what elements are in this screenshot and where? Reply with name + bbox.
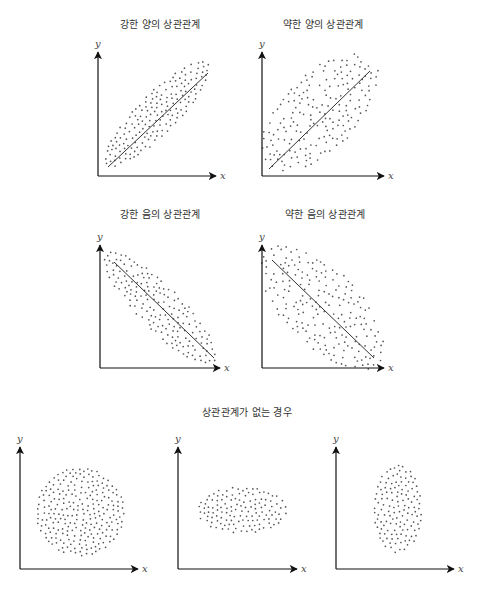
data-point	[323, 264, 325, 266]
data-point	[247, 511, 249, 513]
data-point	[276, 150, 278, 152]
data-point	[56, 542, 58, 544]
data-point	[131, 111, 133, 113]
data-point	[391, 492, 393, 494]
data-point	[291, 117, 293, 119]
data-point	[325, 349, 327, 351]
data-point	[306, 79, 308, 81]
data-point	[265, 273, 267, 275]
data-point	[332, 269, 334, 271]
data-point	[335, 98, 337, 100]
data-point	[310, 298, 312, 300]
data-point	[200, 518, 202, 520]
data-point	[131, 265, 133, 267]
data-point	[106, 271, 108, 273]
data-point	[313, 123, 315, 125]
data-point	[279, 154, 281, 156]
data-point	[305, 154, 307, 156]
data-point	[342, 357, 344, 359]
data-point	[343, 299, 345, 301]
data-point	[106, 162, 108, 164]
data-point	[38, 504, 40, 506]
data-point	[81, 555, 83, 557]
data-point	[405, 494, 407, 496]
data-point	[391, 538, 393, 540]
data-point	[102, 542, 104, 544]
data-point	[384, 533, 386, 535]
data-point	[107, 480, 109, 482]
data-point	[318, 138, 320, 140]
data-point	[358, 99, 360, 101]
data-point	[364, 68, 366, 70]
data-point	[171, 342, 173, 344]
data-point	[318, 280, 320, 282]
data-point	[175, 108, 177, 110]
data-point	[380, 351, 382, 353]
data-point	[175, 80, 177, 82]
data-point	[194, 320, 196, 322]
data-point	[206, 338, 208, 340]
data-point	[324, 151, 326, 153]
data-point	[174, 73, 176, 75]
data-point	[350, 94, 352, 96]
data-point	[201, 342, 203, 344]
data-point	[126, 280, 128, 282]
data-point	[111, 529, 113, 531]
data-point	[377, 502, 379, 504]
data-point	[316, 276, 318, 278]
data-point	[270, 279, 272, 281]
data-point	[113, 538, 115, 540]
data-point	[341, 363, 343, 365]
data-point	[159, 314, 161, 316]
data-point	[131, 147, 133, 149]
data-point	[60, 539, 62, 541]
data-point	[293, 121, 295, 123]
data-point	[96, 500, 98, 502]
data-points	[198, 487, 286, 533]
data-point	[141, 267, 143, 269]
data-point	[374, 346, 376, 348]
data-point	[301, 277, 303, 279]
data-point	[308, 84, 310, 86]
data-point	[96, 494, 98, 496]
data-point	[289, 285, 291, 287]
data-point	[307, 324, 309, 326]
data-point	[199, 331, 201, 333]
data-point	[114, 285, 116, 287]
data-point	[354, 64, 356, 66]
data-point	[184, 79, 186, 81]
data-point	[213, 493, 215, 495]
data-point	[95, 517, 97, 519]
data-point	[297, 326, 299, 328]
data-point	[210, 342, 212, 344]
data-point	[395, 523, 397, 525]
data-point	[334, 78, 336, 80]
data-point	[212, 507, 214, 509]
data-point	[284, 262, 286, 264]
data-point	[291, 157, 293, 159]
data-point	[284, 139, 286, 141]
data-point	[63, 542, 65, 544]
data-point	[351, 117, 353, 119]
data-point	[377, 514, 379, 516]
data-point	[194, 359, 196, 361]
data-point	[62, 472, 64, 474]
data-point	[62, 533, 64, 535]
data-point	[167, 114, 169, 116]
data-point	[49, 531, 51, 533]
data-point	[325, 141, 327, 143]
data-point	[45, 533, 47, 535]
data-point	[120, 162, 122, 164]
data-point	[341, 60, 343, 62]
data-point	[192, 101, 194, 103]
data-point	[182, 313, 184, 315]
data-point	[201, 85, 203, 87]
data-point	[166, 97, 168, 99]
data-point	[67, 534, 69, 536]
data-point	[189, 340, 191, 342]
data-point	[221, 499, 223, 501]
data-point	[98, 504, 100, 506]
data-point	[168, 323, 170, 325]
data-point	[339, 110, 341, 112]
data-point	[115, 155, 117, 157]
